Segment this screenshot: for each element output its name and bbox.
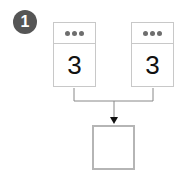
target-box [92,125,135,170]
